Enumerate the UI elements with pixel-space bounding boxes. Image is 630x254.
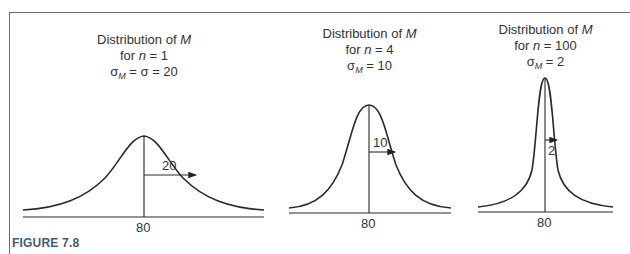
for-text: for [345, 42, 364, 57]
panel-title-n4: Distribution of M for n = 4 σM = 10 [302, 26, 437, 78]
sigma-symbol: σ [110, 64, 118, 79]
mean-label-n1: 80 [136, 220, 150, 235]
panel-title-n1: Distribution of M for n = 1 σM = σ = 20 [74, 32, 214, 84]
for-text: for [120, 48, 139, 63]
title-text: Distribution of [97, 32, 180, 47]
title-text: Distribution of [499, 22, 582, 37]
panel-title-n100: Distribution of M for n = 100 σM = 2 [478, 22, 613, 74]
curve-panel-n1 [23, 136, 264, 217]
sigma-value: = 2 [542, 54, 564, 69]
n-value: = 4 [371, 42, 393, 57]
sd-label-n1: 20 [162, 158, 176, 173]
variable-n: n [139, 48, 146, 63]
variable-m: M [180, 32, 191, 47]
sigma-symbol: σ [347, 58, 355, 73]
variable-m: M [582, 22, 593, 37]
mean-label-n100: 80 [537, 215, 551, 230]
sd-label-n100: 2 [548, 143, 555, 158]
sigma-value: = σ = 20 [126, 64, 178, 79]
sigma-subscript: M [118, 71, 126, 81]
sd-label-n4: 10 [373, 135, 387, 150]
sigma-subscript: M [355, 65, 363, 75]
sigma-symbol: σ [527, 54, 535, 69]
title-text: Distribution of [323, 26, 406, 41]
mean-label-n4: 80 [361, 216, 375, 231]
curve-panel-n100 [478, 78, 613, 212]
sigma-value: = 10 [363, 58, 392, 73]
variable-m: M [406, 26, 417, 41]
n-value: = 1 [146, 48, 168, 63]
for-text: for [514, 38, 533, 53]
figure-caption: FIGURE 7.8 [12, 236, 79, 250]
n-value: = 100 [540, 38, 577, 53]
curve-panel-n4 [289, 105, 451, 213]
